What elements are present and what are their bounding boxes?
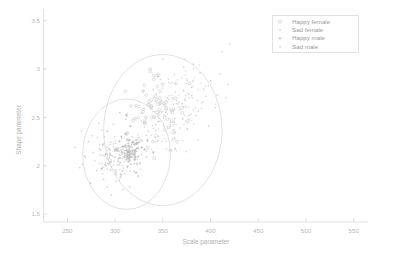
y-tick-label: 3	[37, 65, 41, 72]
data-point	[152, 151, 155, 154]
data-point	[168, 98, 170, 100]
data-point	[110, 161, 112, 163]
data-point	[115, 181, 117, 183]
data-point	[172, 82, 174, 84]
data-point	[227, 84, 229, 86]
data-point	[152, 78, 155, 81]
data-point	[186, 128, 188, 130]
data-point	[129, 186, 131, 188]
data-point	[118, 158, 120, 160]
data-point	[138, 105, 141, 108]
data-point	[140, 148, 142, 150]
data-point	[152, 125, 154, 127]
data-point	[184, 59, 186, 61]
data-point	[123, 167, 125, 169]
data-point	[186, 107, 188, 109]
data-point	[133, 171, 135, 173]
data-point	[177, 79, 179, 81]
data-point	[129, 105, 132, 108]
data-point	[198, 111, 200, 113]
data-point	[110, 149, 112, 151]
data-point	[109, 144, 111, 146]
data-point	[118, 147, 120, 149]
data-point	[144, 126, 146, 128]
data-point	[110, 154, 112, 156]
data-point	[186, 78, 188, 80]
x-tick-label: 300	[110, 227, 121, 234]
legend-label[interactable]: Happy female	[292, 18, 331, 25]
data-point	[185, 74, 187, 76]
legend[interactable]: Happy femaleSad femaleHappy maleSad male	[273, 16, 359, 53]
data-point	[128, 139, 131, 142]
data-point	[91, 135, 93, 137]
data-point	[135, 171, 138, 174]
data-point	[157, 121, 159, 123]
data-point	[188, 82, 191, 85]
data-point	[129, 125, 132, 128]
data-point	[175, 103, 177, 105]
data-point	[116, 164, 118, 166]
data-point	[118, 164, 120, 166]
data-point	[188, 119, 190, 121]
x-tick-label: 500	[301, 227, 312, 234]
data-point	[131, 144, 133, 146]
data-point	[125, 119, 127, 121]
data-point	[131, 136, 133, 138]
data-point	[208, 85, 210, 87]
data-point	[197, 100, 199, 102]
data-point	[110, 159, 112, 161]
data-point	[202, 101, 204, 103]
data-point	[120, 135, 123, 138]
data-point	[178, 94, 180, 96]
data-point	[162, 111, 164, 113]
data-point	[152, 140, 155, 143]
data-point	[168, 118, 170, 120]
data-point	[146, 151, 148, 153]
data-point	[192, 80, 194, 82]
data-point	[102, 173, 104, 175]
data-point	[153, 97, 155, 99]
legend-label[interactable]: Sad male	[292, 43, 319, 50]
data-point	[152, 111, 154, 113]
data-point	[126, 165, 129, 168]
data-point	[90, 182, 92, 184]
data-point	[158, 128, 160, 130]
data-point	[102, 166, 104, 168]
legend-label[interactable]: Sad female	[292, 26, 324, 33]
data-point	[104, 156, 106, 158]
data-point	[113, 143, 115, 145]
data-point	[137, 155, 140, 158]
data-point	[155, 93, 157, 95]
data-point	[99, 144, 101, 146]
data-point	[188, 106, 190, 108]
data-point	[219, 73, 221, 75]
data-point	[137, 158, 139, 160]
dot-marker	[279, 29, 281, 31]
data-point	[172, 124, 174, 126]
data-point	[109, 157, 111, 159]
x-axis-ticks: 250300350400450500550	[62, 219, 359, 235]
legend-label[interactable]: Happy male	[292, 34, 326, 41]
data-point	[174, 74, 176, 76]
data-point	[170, 132, 172, 134]
data-point	[106, 150, 108, 152]
data-point	[158, 97, 161, 100]
data-point	[134, 117, 137, 120]
data-point	[156, 101, 158, 103]
data-point	[205, 95, 207, 97]
data-point	[115, 174, 117, 176]
data-point	[172, 130, 174, 132]
data-point	[208, 125, 210, 127]
data-point	[155, 123, 157, 125]
data-point	[140, 112, 142, 114]
data-point	[163, 126, 165, 128]
data-point	[118, 151, 120, 153]
data-point	[192, 109, 194, 111]
data-point	[101, 163, 103, 165]
data-point	[120, 162, 122, 164]
data-point	[181, 112, 184, 115]
data-point	[186, 151, 188, 153]
data-point	[197, 139, 199, 141]
data-point	[162, 83, 164, 85]
data-point	[191, 87, 193, 89]
